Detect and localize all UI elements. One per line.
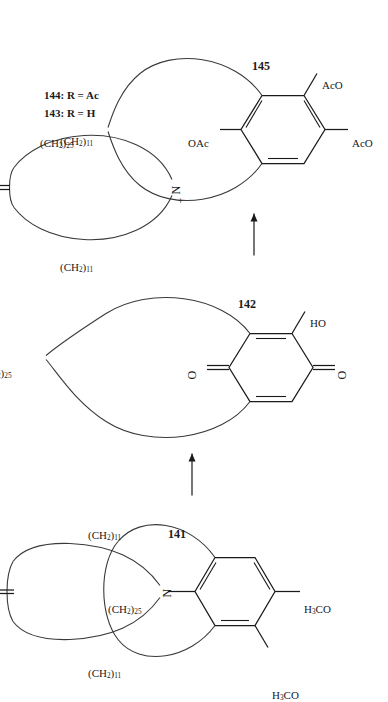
label-chain-25-145: (CH2)25 bbox=[40, 137, 74, 150]
structure-145-drawing bbox=[122, 9, 388, 199]
label-chain-11-right-141: (CH2)11 bbox=[88, 529, 121, 542]
chain-25-left-145 bbox=[108, 131, 262, 200]
reaction-arrow-142-to-145 bbox=[244, 205, 264, 257]
label-nitrogen-141: N bbox=[161, 588, 173, 597]
label-chain-11-left-141: (CH2)11 bbox=[88, 667, 121, 680]
chain-right-141 bbox=[13, 543, 160, 585]
structure-141-drawing bbox=[0, 505, 388, 655]
label-chain-25-142: (CH2)25 bbox=[0, 367, 12, 380]
label-aco-2-145: AcO bbox=[352, 137, 373, 148]
label-charge-plus-143: + bbox=[176, 197, 186, 203]
label-aco-1-145: AcO bbox=[322, 79, 343, 90]
bond-to-hydroxyl-142 bbox=[292, 311, 305, 333]
structure-145: OAc AcO AcO (CH2)25 145 bbox=[122, 9, 388, 199]
structure-number-145: 145 bbox=[252, 59, 270, 71]
label-quinone-oxygen-bottom-142: O bbox=[336, 370, 348, 379]
label-oac-145: OAc bbox=[188, 137, 209, 148]
structure-141: O (CH2)11 (CH2)11 (CH2)25 N H3CO H3CO 14… bbox=[0, 505, 388, 655]
label-chain-11-left-143: (CH2)11 bbox=[60, 261, 93, 274]
chain-left-143 bbox=[14, 195, 172, 239]
structure-142: O O HO (CH2)25 142 + R—N bbox=[0, 255, 388, 437]
chain-25-right-142 bbox=[46, 297, 250, 355]
label-quinone-oxygen-top-142: O bbox=[186, 370, 198, 379]
reaction-arrow-141-to-142 bbox=[182, 445, 202, 497]
chain-top-143 bbox=[10, 167, 15, 207]
benzene-ring-141 bbox=[195, 557, 275, 625]
label-hydroxyl-142: HO bbox=[310, 317, 326, 328]
label-methoxy-2-141: H3CO bbox=[304, 603, 331, 616]
bond-to-methoxy-1 bbox=[255, 625, 268, 647]
chain-25-right-145 bbox=[108, 58, 262, 127]
carbonyl-141 bbox=[0, 561, 16, 621]
definition-144: 144: R = Ac bbox=[44, 89, 99, 100]
chain-25-left-142 bbox=[46, 359, 250, 437]
benzene-ring-145 bbox=[241, 95, 325, 163]
label-chain-25-141: (CH2)25 bbox=[108, 603, 142, 616]
structure-number-141: 141 bbox=[168, 527, 186, 539]
structure-142-drawing bbox=[0, 255, 388, 437]
quinone-ring-142 bbox=[229, 333, 313, 401]
structure-number-142: 142 bbox=[238, 297, 256, 309]
definition-143: 143: R = H bbox=[44, 107, 95, 118]
bond-to-aco-1-145 bbox=[304, 73, 317, 95]
label-methoxy-1-141: H3CO bbox=[272, 689, 299, 702]
